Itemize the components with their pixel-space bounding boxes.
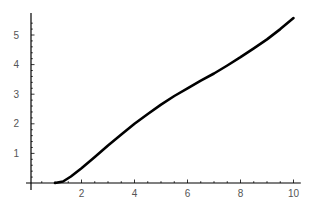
y-tick-label: 2 [13, 118, 19, 129]
y-axis: 12345 [13, 13, 34, 190]
x-tick-label: 8 [238, 188, 244, 199]
line-chart: 246810 12345 [0, 0, 316, 203]
x-tick-label: 4 [132, 188, 138, 199]
y-tick-label: 4 [13, 59, 19, 70]
series-line [55, 18, 294, 183]
series-layer [55, 18, 294, 183]
x-tick-label: 2 [79, 188, 85, 199]
x-tick-label: 10 [288, 188, 300, 199]
y-tick-label: 3 [13, 89, 19, 100]
y-tick-label: 1 [13, 148, 19, 159]
x-tick-label: 6 [185, 188, 191, 199]
y-tick-label: 5 [13, 30, 19, 41]
x-axis: 246810 [26, 180, 301, 200]
